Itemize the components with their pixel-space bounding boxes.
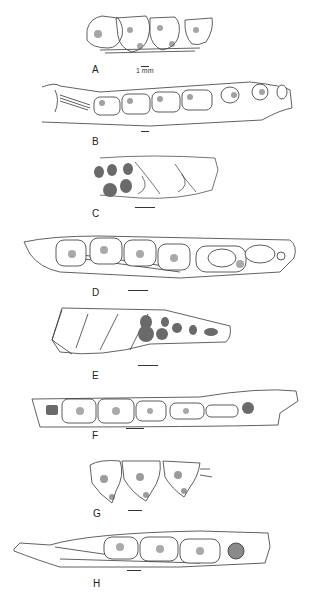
jaw-drawing-h <box>0 525 312 594</box>
scale-bar <box>138 365 158 366</box>
panel-label: D <box>92 287 99 298</box>
tooth-row-drawing-g <box>0 455 312 530</box>
panel-g: G <box>0 455 312 530</box>
panel-h: H <box>0 525 312 594</box>
panel-label: G <box>93 508 101 519</box>
panel-label: E <box>92 370 99 381</box>
scale-bar <box>135 207 155 208</box>
panel-d: D <box>0 220 312 300</box>
scale-bar <box>141 131 149 132</box>
jaw-drawing-f <box>0 385 312 460</box>
panel-f: F <box>0 385 312 460</box>
panel-label: F <box>92 430 98 441</box>
panel-e: E <box>0 300 312 385</box>
jaw-drawing-e <box>0 300 312 385</box>
jaw-drawing-d <box>0 220 312 300</box>
jaw-drawing-c <box>0 150 312 220</box>
panel-label: B <box>92 136 99 147</box>
tooth-row-drawing-a <box>0 0 312 75</box>
panel-c: C <box>0 150 312 220</box>
panel-b: B <box>0 70 312 155</box>
panel-label: H <box>93 578 100 589</box>
scale-bar <box>128 510 142 511</box>
scale-bar <box>128 290 148 291</box>
panel-label: C <box>92 208 99 219</box>
scale-bar <box>126 428 144 429</box>
panel-a: A 1 mm <box>0 0 312 75</box>
jaw-drawing-b <box>0 70 312 155</box>
scale-bar <box>127 570 141 571</box>
